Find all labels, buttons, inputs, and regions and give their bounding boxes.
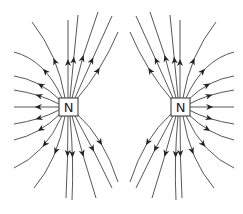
left-north-pole: N [59, 98, 78, 116]
right-north-pole: N [171, 98, 190, 116]
left-pole-label: N [64, 100, 74, 115]
right-pole-label: N [176, 100, 186, 115]
diagram-canvas: N N [0, 0, 243, 214]
field-lines-diagram: N N [0, 0, 243, 214]
